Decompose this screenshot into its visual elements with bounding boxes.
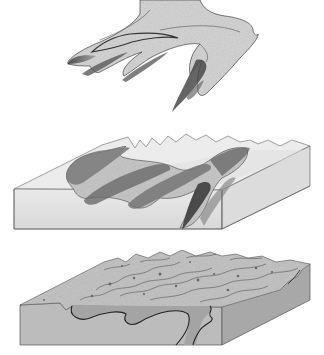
panel-3-terrain-block [20, 250, 310, 345]
panel-1-fold-surface [68, 0, 258, 112]
geology-figure [0, 0, 324, 355]
panel-2-transparent-block [14, 134, 310, 230]
